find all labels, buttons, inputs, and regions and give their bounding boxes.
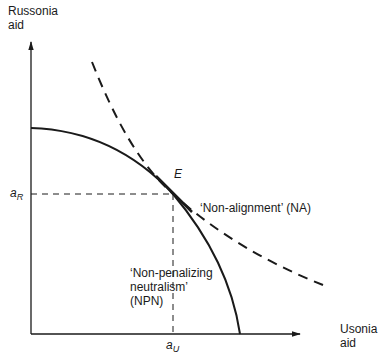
a-r-label: aR	[10, 186, 23, 204]
indifference-curve	[92, 62, 323, 285]
a-u-label: aU	[166, 338, 179, 354]
a-u-sub: U	[173, 344, 180, 354]
npn-label: ‘Non-penalizing neutralism’ (NPN)	[130, 266, 213, 308]
y-axis-label-line2: aid	[8, 18, 58, 32]
npn-label-line2: neutralism’	[130, 280, 213, 294]
y-axis-label: Russonia aid	[8, 4, 58, 32]
npn-label-line1: ‘Non-penalizing	[130, 266, 213, 280]
a-u-base: a	[166, 338, 173, 352]
npn-label-line3: (NPN)	[130, 294, 213, 308]
a-r-sub: R	[17, 192, 24, 202]
point-e-label: E	[174, 167, 182, 181]
x-axis-label-line1: Usonia	[340, 322, 377, 336]
tangent-segment	[156, 176, 192, 212]
na-label: ‘Non-alignment’ (NA)	[200, 201, 311, 215]
x-axis-label: Usonia aid	[340, 322, 377, 350]
y-axis-label-line1: Russonia	[8, 4, 58, 18]
a-r-base: a	[10, 186, 17, 200]
x-axis-label-line2: aid	[340, 336, 377, 350]
